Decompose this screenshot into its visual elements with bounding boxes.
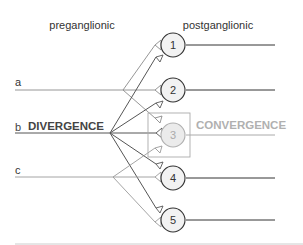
input-label-c: c [15, 164, 21, 176]
neuron-4: 4 [161, 166, 185, 190]
neuron-5: 5 [161, 208, 185, 232]
neuron-3: 3 [161, 123, 185, 147]
neuron-3-label: 3 [170, 129, 176, 141]
input-label-b: b [15, 121, 21, 133]
neuron-2: 2 [161, 78, 185, 102]
divergence-convergence-diagram: preganglionic postganglionic a b c DIVER… [0, 0, 303, 245]
axon-a [15, 45, 155, 118]
neuron-4-label: 4 [170, 172, 176, 184]
convergence-label: CONVERGENCE [196, 119, 286, 131]
axon-c [15, 148, 155, 222]
neuron-2-label: 2 [170, 84, 176, 96]
input-label-a: a [15, 76, 22, 88]
postganglionic-header: postganglionic [183, 19, 254, 31]
preganglionic-header: preganglionic [49, 19, 115, 31]
axon-b [15, 57, 156, 208]
postganglionic-axons [186, 45, 275, 220]
neuron-1: 1 [161, 33, 185, 57]
neuron-1-label: 1 [170, 39, 176, 51]
neuron-5-label: 5 [170, 214, 176, 226]
divergence-label: DIVERGENCE [28, 120, 104, 132]
